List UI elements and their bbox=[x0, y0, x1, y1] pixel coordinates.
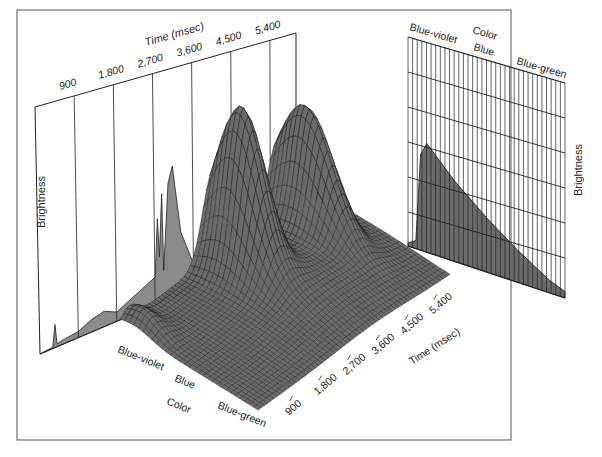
color-tick-blue: Blue bbox=[472, 40, 496, 57]
surface-color-tick-blue: Blue bbox=[173, 372, 197, 391]
time-tick-label: 4,500 bbox=[214, 29, 243, 48]
surface-time-tick-label: 3,600 bbox=[369, 330, 397, 356]
surface-time-tick-label: 5,400 bbox=[426, 290, 454, 316]
surface-time-tick-label: 2,700 bbox=[340, 351, 368, 377]
time-gridline bbox=[152, 74, 155, 305]
brightness-figure: 9001,8002,7003,6004,5005,400 Time (msec)… bbox=[0, 0, 602, 457]
surface-time-tick-label: 1,800 bbox=[311, 371, 339, 397]
color-axis-title: Color bbox=[471, 23, 499, 42]
surface-time-tick-label: 4,500 bbox=[398, 310, 426, 336]
surface-color-title: Color bbox=[165, 395, 193, 416]
time-tick-label: 5,400 bbox=[253, 18, 282, 37]
time-panel-ylabel: Brightness bbox=[35, 176, 47, 228]
surface-time-tick-label: 900 bbox=[282, 397, 303, 418]
time-tick-label: 2,700 bbox=[135, 51, 165, 70]
color-tick-blue-violet: Blue-violet bbox=[408, 20, 459, 45]
color-panel-ylabel: Brightness bbox=[572, 144, 584, 196]
time-gridline bbox=[192, 63, 194, 289]
time-panel-left-edge bbox=[35, 107, 40, 354]
time-tick-label: 1,800 bbox=[97, 62, 126, 81]
time-gridline bbox=[74, 96, 78, 338]
surface-color-tick-blue-violet: Blue-violet bbox=[116, 343, 166, 373]
color-projection-panel: Blue-violet Color Blue Blue-green Bright… bbox=[408, 20, 584, 298]
surface-time-title: Time (msec) bbox=[407, 325, 462, 367]
time-gridline bbox=[113, 85, 117, 321]
time-tick-label: 3,600 bbox=[175, 40, 204, 59]
time-tick-label: 900 bbox=[57, 75, 77, 91]
